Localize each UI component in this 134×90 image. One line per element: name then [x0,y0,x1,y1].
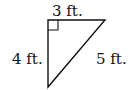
triangle-diagram: 3 ft. 4 ft. 5 ft. [0,0,134,90]
top-side-label: 3 ft. [52,2,83,20]
hypotenuse-label: 5 ft. [96,50,127,68]
left-side-label: 4 ft. [12,50,43,68]
right-angle-marker [48,20,58,30]
